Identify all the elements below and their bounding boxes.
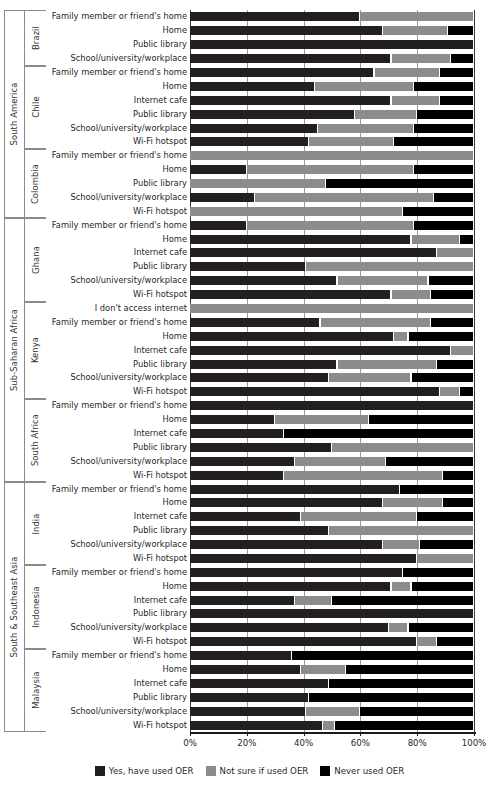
bar-segment-never bbox=[409, 623, 473, 632]
country-group-kenya: Kenya bbox=[24, 302, 46, 399]
bar-segment-notsure bbox=[389, 623, 408, 632]
region-axis-column: South AmericaSub-Saharan AfricaSouth & S… bbox=[4, 10, 24, 732]
row-label: School/university/workplace bbox=[46, 707, 187, 715]
bar-segment-never bbox=[451, 54, 473, 63]
bar-segment-notsure bbox=[301, 512, 416, 521]
bar-row bbox=[190, 193, 475, 202]
x-tick-label: 0% bbox=[183, 738, 197, 748]
bar-segment-yes bbox=[190, 96, 390, 105]
bar-segment-notsure bbox=[360, 12, 472, 21]
bar-segment-notsure bbox=[392, 582, 411, 591]
bar-segment-notsure bbox=[417, 554, 473, 563]
bar-row bbox=[190, 68, 475, 77]
bar-segment-never bbox=[437, 637, 473, 646]
row-label: Family member or friend's home bbox=[46, 221, 187, 229]
country-label: Chile bbox=[31, 96, 41, 117]
bar-segment-never bbox=[403, 568, 473, 577]
legend-swatch-icon bbox=[206, 766, 216, 776]
bar-segment-never bbox=[443, 471, 473, 480]
legend-item-never[interactable]: Never used OER bbox=[320, 766, 404, 776]
bar-row bbox=[190, 290, 475, 299]
bar-row bbox=[190, 471, 475, 480]
country-group-colombia: Colombia bbox=[24, 149, 46, 218]
country-label: Ghana bbox=[31, 246, 41, 274]
row-label: Wi-Fi hotspot bbox=[46, 137, 187, 145]
row-label: Public library bbox=[46, 693, 187, 701]
bar-segment-notsure bbox=[383, 498, 441, 507]
bar-segment-never bbox=[329, 679, 473, 688]
bar-row bbox=[190, 165, 475, 174]
bar-segment-yes bbox=[190, 401, 473, 410]
country-group-ghana: Ghana bbox=[24, 218, 46, 301]
bar-segment-notsure bbox=[190, 304, 473, 313]
bar-segment-yes bbox=[190, 651, 291, 660]
row-label: Home bbox=[46, 332, 187, 340]
bar-row bbox=[190, 540, 475, 549]
bar-row bbox=[190, 637, 475, 646]
row-label: Public library bbox=[46, 110, 187, 118]
bar-segment-notsure bbox=[275, 415, 368, 424]
bar-segment-yes bbox=[190, 609, 473, 618]
bar-segment-notsure bbox=[338, 360, 436, 369]
bar-segment-yes bbox=[190, 54, 390, 63]
bar-segment-yes bbox=[190, 137, 308, 146]
bar-row bbox=[190, 582, 475, 591]
x-tick-label: 100% bbox=[462, 738, 487, 748]
bar-row bbox=[190, 54, 475, 63]
bar-row bbox=[190, 304, 475, 313]
bar-row bbox=[190, 360, 475, 369]
x-tick-0 bbox=[190, 732, 191, 736]
row-label: School/university/workplace bbox=[46, 457, 187, 465]
row-label: Internet cafe bbox=[46, 346, 187, 354]
x-tick-100 bbox=[474, 732, 475, 736]
country-group-indonesia: Indonesia bbox=[24, 565, 46, 648]
bar-segment-yes bbox=[190, 623, 388, 632]
region-label: Sub-Saharan Africa bbox=[10, 309, 20, 391]
legend-item-yes[interactable]: Yes, have used OER bbox=[95, 766, 194, 776]
row-label: Home bbox=[46, 415, 187, 423]
x-axis-line bbox=[190, 732, 476, 734]
bar-segment-yes bbox=[190, 721, 322, 730]
bar-segment-never bbox=[460, 235, 473, 244]
bar-segment-never bbox=[414, 221, 472, 230]
bar-segment-yes bbox=[190, 554, 416, 563]
bar-row bbox=[190, 248, 475, 257]
bar-segment-notsure bbox=[338, 276, 428, 285]
x-tick-label: 60% bbox=[351, 738, 370, 748]
bar-segment-yes bbox=[190, 373, 328, 382]
region-group-sub-saharan-africa: Sub-Saharan Africa bbox=[4, 218, 24, 482]
country-label: Brazil bbox=[31, 26, 41, 50]
bar-row bbox=[190, 596, 475, 605]
bar-segment-notsure bbox=[383, 540, 419, 549]
bar-segment-yes bbox=[190, 679, 328, 688]
row-label: Home bbox=[46, 235, 187, 243]
bar-segment-yes bbox=[190, 332, 393, 341]
row-label: School/university/workplace bbox=[46, 623, 187, 631]
bar-row bbox=[190, 12, 475, 21]
bar-row bbox=[190, 124, 475, 133]
x-tick-label: 20% bbox=[237, 738, 256, 748]
country-group-south-africa: South Africa bbox=[24, 399, 46, 482]
row-label: Home bbox=[46, 26, 187, 34]
legend-label: Never used OER bbox=[334, 766, 404, 776]
row-label: Internet cafe bbox=[46, 679, 187, 687]
row-label: School/university/workplace bbox=[46, 373, 187, 381]
bar-row bbox=[190, 110, 475, 119]
bar-row bbox=[190, 415, 475, 424]
chart-legend: Yes, have used OERNot sure if used OERNe… bbox=[0, 763, 499, 779]
bar-segment-yes bbox=[190, 82, 314, 91]
bar-segment-yes bbox=[190, 318, 319, 327]
bar-row bbox=[190, 609, 475, 618]
bar-row bbox=[190, 721, 475, 730]
bar-segment-never bbox=[360, 707, 472, 716]
bar-segment-yes bbox=[190, 262, 305, 271]
bar-segment-never bbox=[460, 387, 473, 396]
legend-item-notsure[interactable]: Not sure if used OER bbox=[206, 766, 309, 776]
row-label: Wi-Fi hotspot bbox=[46, 290, 187, 298]
bar-row bbox=[190, 221, 475, 230]
bar-segment-notsure bbox=[295, 457, 385, 466]
bar-segment-yes bbox=[190, 498, 382, 507]
bar-segment-yes bbox=[190, 165, 246, 174]
x-tick-label: 80% bbox=[408, 738, 427, 748]
bar-segment-yes bbox=[190, 235, 410, 244]
